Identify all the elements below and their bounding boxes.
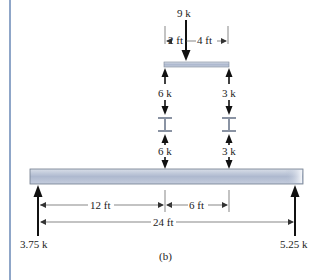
dim-12ft-label: 12 ft [90,199,110,211]
top-load-label: 9 k [177,7,191,19]
left-reaction-arrow [34,185,43,236]
right-upper-force-label: 3 k [222,87,236,99]
right-lower-force-label: 3 k [222,145,236,157]
main-beam [30,169,303,184]
beam-diagram: 9 k 2 ft 4 ft 6 k 6 k [0,0,329,280]
right-reaction-arrow [291,185,300,236]
left-reaction-label: 3.75 k [20,238,48,250]
top-beam [164,62,229,67]
top-dim-right-label: 4 ft [197,34,212,46]
figure-caption: (b) [159,250,172,263]
right-reaction-label: 5.25 k [280,238,308,250]
dim-24ft-label: 24 ft [153,216,173,228]
left-lower-force-label: 6 k [158,145,172,157]
top-dim-left-label: 2 ft [168,34,183,46]
dim-6ft-label: 6 ft [189,199,204,211]
left-upper-force-label: 6 k [158,87,172,99]
